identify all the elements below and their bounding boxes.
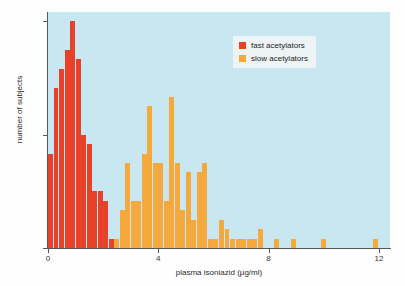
- histogram-bar: [241, 239, 246, 248]
- histogram-bar: [87, 144, 92, 248]
- legend-swatch-fast-acetylators: [239, 42, 246, 49]
- y-tick-mark: [43, 21, 47, 22]
- histogram-bar: [114, 239, 119, 248]
- histogram-bar: [208, 239, 213, 248]
- histogram-bar: [109, 239, 114, 248]
- histogram-bar: [186, 172, 191, 248]
- histogram-bar: [120, 210, 125, 248]
- histogram-bar: [98, 191, 103, 248]
- y-axis-line: [47, 12, 48, 249]
- x-tick-label: 12: [375, 255, 384, 263]
- x-tick-mark: [269, 249, 270, 253]
- histogram-bar: [252, 239, 257, 248]
- histogram-bar: [136, 201, 141, 248]
- histogram-bar: [48, 154, 53, 248]
- histogram-bar: [230, 239, 235, 248]
- x-axis-title: plasma isoniazid (µg/ml): [48, 268, 390, 277]
- bars-container: [48, 12, 390, 248]
- legend-item-fast-acetylators: fast acetylators: [239, 41, 308, 50]
- histogram-bar: [70, 21, 75, 248]
- x-axis-line: [47, 248, 391, 249]
- histogram-bar: [321, 239, 326, 248]
- x-tick-mark: [379, 249, 380, 253]
- histogram-bar: [225, 229, 230, 248]
- histogram-bar: [236, 239, 241, 248]
- histogram-bar: [202, 163, 207, 248]
- x-tick-label: 0: [46, 255, 50, 263]
- chart-legend: fast acetylators slow acetylators: [233, 36, 316, 68]
- x-tick-label: 8: [266, 255, 270, 263]
- histogram-bar: [258, 229, 263, 248]
- legend-label-slow-acetylators: slow acetylators: [251, 54, 308, 63]
- histogram-bar: [169, 97, 174, 248]
- histogram-bar: [373, 239, 378, 248]
- histogram-bar: [125, 163, 130, 248]
- y-axis-title: number of subjects: [15, 45, 24, 175]
- histogram-bar: [92, 191, 97, 248]
- histogram-bar: [213, 239, 218, 248]
- histogram-bar: [54, 88, 59, 248]
- histogram-bar: [219, 220, 224, 248]
- histogram-bar: [103, 201, 108, 248]
- histogram-bar: [274, 239, 279, 248]
- x-tick-mark: [158, 249, 159, 253]
- histogram-bar: [147, 106, 152, 248]
- y-tick-mark: [43, 248, 47, 249]
- histogram-bar: [153, 163, 158, 248]
- histogram-bar: [59, 69, 64, 248]
- histogram-bar: [191, 220, 196, 248]
- legend-label-fast-acetylators: fast acetylators: [251, 41, 305, 50]
- histogram-bar: [65, 50, 70, 248]
- plot-area: [48, 12, 390, 248]
- histogram-bar: [175, 163, 180, 248]
- histogram-bar: [76, 59, 81, 248]
- histogram-figure: 01224 plasma isoniazid (µg/ml) number of…: [0, 0, 405, 286]
- histogram-bar: [142, 154, 147, 248]
- histogram-bar: [180, 210, 185, 248]
- histogram-bar: [164, 201, 169, 248]
- histogram-bar: [81, 135, 86, 248]
- x-tick-label: 4: [156, 255, 160, 263]
- histogram-bar: [131, 201, 136, 248]
- x-tick-mark: [48, 249, 49, 253]
- histogram-bar: [291, 239, 296, 248]
- histogram-bar: [197, 172, 202, 248]
- histogram-bar: [247, 239, 252, 248]
- legend-item-slow-acetylators: slow acetylators: [239, 54, 308, 63]
- y-tick-mark: [43, 135, 47, 136]
- legend-swatch-slow-acetylators: [239, 55, 246, 62]
- histogram-bar: [158, 163, 163, 248]
